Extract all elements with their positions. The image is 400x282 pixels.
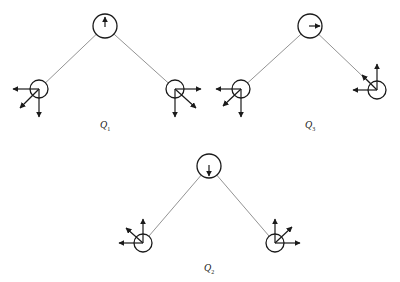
vector-arrow-icon [20,89,39,108]
vector-arrow-icon [362,75,377,90]
mode-q2 [119,154,300,252]
mode-q3 [216,14,386,117]
bond-line [217,175,269,236]
normal-modes-diagram [0,0,400,282]
mode-label-subscript: 3 [312,126,315,132]
bond-line [114,34,168,83]
bond-line [149,175,201,236]
mode-label-subscript: 1 [107,126,110,132]
mode-label-q2: Q2 [204,262,214,275]
mode-q1 [13,14,201,117]
bond-line [248,34,301,83]
mode-label-subscript: 2 [211,269,214,275]
vector-arrow-icon [175,89,196,108]
mode-label-q1: Q1 [100,119,110,132]
bond-line [46,34,97,83]
mode-label-q3: Q3 [305,119,315,132]
